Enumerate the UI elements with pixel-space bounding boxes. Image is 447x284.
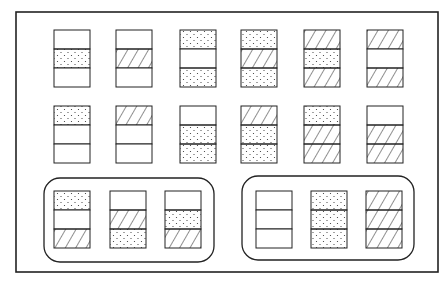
cell-stack bbox=[304, 30, 340, 87]
cell-empty bbox=[116, 30, 152, 49]
cell-hatched bbox=[304, 144, 340, 163]
cell-stack bbox=[241, 106, 277, 163]
cell-dotted bbox=[241, 144, 277, 163]
cell-empty bbox=[256, 191, 292, 210]
cell-stack bbox=[54, 30, 90, 87]
cell-hatched bbox=[366, 210, 402, 229]
cell-stack bbox=[256, 191, 292, 248]
cell-dotted bbox=[304, 49, 340, 68]
cell-empty bbox=[54, 210, 90, 229]
cell-empty bbox=[116, 125, 152, 144]
cell-empty bbox=[54, 125, 90, 144]
cell-empty bbox=[180, 49, 216, 68]
cell-hatched bbox=[165, 229, 201, 248]
cell-dotted bbox=[241, 68, 277, 87]
cell-dotted bbox=[180, 68, 216, 87]
cell-dotted bbox=[110, 229, 146, 248]
cell-dotted bbox=[180, 30, 216, 49]
diagram-layer bbox=[16, 12, 438, 272]
cell-hatched bbox=[116, 49, 152, 68]
cell-dotted bbox=[165, 210, 201, 229]
cell-hatched bbox=[304, 30, 340, 49]
cell-stack bbox=[304, 106, 340, 163]
cell-hatched bbox=[110, 210, 146, 229]
cell-stack bbox=[367, 30, 403, 87]
cell-stack bbox=[54, 191, 90, 248]
cell-empty bbox=[116, 144, 152, 163]
cell-empty bbox=[367, 106, 403, 125]
cell-stack bbox=[116, 106, 152, 163]
cell-dotted bbox=[311, 229, 347, 248]
cell-empty bbox=[256, 210, 292, 229]
cell-hatched bbox=[304, 68, 340, 87]
cell-hatched bbox=[366, 229, 402, 248]
cell-dotted bbox=[54, 191, 90, 210]
cell-hatched bbox=[241, 106, 277, 125]
cell-dotted bbox=[311, 191, 347, 210]
cell-hatched bbox=[366, 191, 402, 210]
cell-empty bbox=[256, 229, 292, 248]
cell-dotted bbox=[54, 106, 90, 125]
cell-dotted bbox=[180, 144, 216, 163]
cell-dotted bbox=[241, 30, 277, 49]
cell-stack bbox=[110, 191, 146, 248]
cell-empty bbox=[367, 49, 403, 68]
diagram-canvas bbox=[0, 0, 447, 284]
cell-stack bbox=[366, 191, 402, 248]
cell-hatched bbox=[367, 30, 403, 49]
cell-dotted bbox=[54, 49, 90, 68]
cell-empty bbox=[54, 30, 90, 49]
cell-stack bbox=[241, 30, 277, 87]
cell-dotted bbox=[241, 125, 277, 144]
cell-stack bbox=[54, 106, 90, 163]
cell-dotted bbox=[311, 210, 347, 229]
cell-stack bbox=[367, 106, 403, 163]
cell-empty bbox=[110, 191, 146, 210]
cell-hatched bbox=[304, 125, 340, 144]
cell-stack bbox=[180, 30, 216, 87]
cell-empty bbox=[54, 68, 90, 87]
cell-empty bbox=[165, 191, 201, 210]
cell-stack bbox=[165, 191, 201, 248]
cell-empty bbox=[116, 68, 152, 87]
cell-hatched bbox=[367, 144, 403, 163]
cell-empty bbox=[54, 144, 90, 163]
cell-stack bbox=[311, 191, 347, 248]
cell-hatched bbox=[241, 49, 277, 68]
cell-hatched bbox=[116, 106, 152, 125]
cell-dotted bbox=[304, 106, 340, 125]
cell-stack bbox=[180, 106, 216, 163]
cell-stack bbox=[116, 30, 152, 87]
cell-hatched bbox=[54, 229, 90, 248]
cell-empty bbox=[180, 106, 216, 125]
cell-dotted bbox=[180, 125, 216, 144]
cell-hatched bbox=[367, 68, 403, 87]
cell-hatched bbox=[367, 125, 403, 144]
